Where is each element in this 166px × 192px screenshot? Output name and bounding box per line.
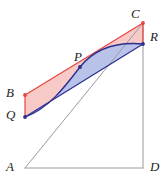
vertex-dot-b [23, 93, 27, 97]
vertex-dot-p [78, 65, 82, 69]
vertex-dot-q [23, 115, 27, 119]
vertex-dot-c [141, 21, 145, 25]
figure-canvas [0, 0, 166, 192]
vertex-label-c: C [131, 7, 140, 20]
vertex-label-b: B [6, 86, 14, 99]
vertex-label-a: A [6, 160, 14, 173]
segment-QR-chord [25, 44, 143, 117]
geometry-figure: ABCDPQR [0, 0, 166, 192]
vertex-dot-r [141, 42, 145, 46]
vertex-label-p: P [74, 50, 82, 63]
vertex-label-q: Q [6, 108, 15, 121]
segment-BC [25, 23, 143, 95]
vertex-label-r: R [150, 30, 158, 43]
vertex-label-d: D [150, 160, 159, 173]
